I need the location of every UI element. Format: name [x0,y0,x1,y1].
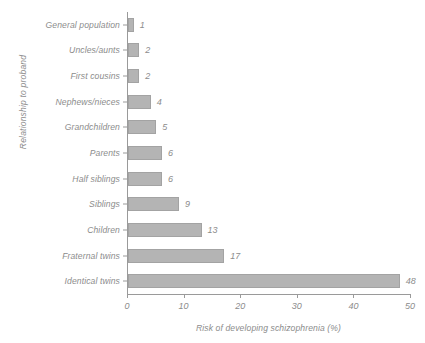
schizophrenia-risk-bar-chart: Relationship to proband General populati… [0,0,425,343]
x-axis-tick-label: 30 [292,301,302,311]
category-label: Siblings [89,199,120,209]
category-label: Identical twins [65,276,120,286]
bar [128,43,139,57]
x-axis-tick-label: 40 [348,301,358,311]
bar-value-label: 6 [168,174,173,184]
bar-row: Uncles/aunts2 [127,38,410,64]
bar-value-label: 13 [208,225,218,235]
x-axis-tick-label: 10 [179,301,189,311]
category-label: Grandchildren [65,122,120,132]
bar-value-label: 2 [145,71,150,81]
bar [128,249,224,263]
plot-area: General population1Uncles/aunts2First co… [127,12,410,294]
x-axis-tick [353,294,354,298]
bar-row: Half siblings6 [127,166,410,192]
bar-row: Siblings9 [127,191,410,217]
x-axis-line [127,294,410,295]
y-axis-tick [123,255,127,256]
bar-row: Children13 [127,217,410,243]
bar [128,120,156,134]
category-label: Nephews/nieces [56,97,120,107]
bar-row: Parents6 [127,140,410,166]
y-axis-tick [123,24,127,25]
bar [128,18,134,32]
bar-value-label: 6 [168,148,173,158]
x-axis-tick [127,294,128,298]
bar-row: First cousins2 [127,63,410,89]
x-axis-tick-label: 0 [124,301,129,311]
x-axis-title: Risk of developing schizophrenia (%) [127,323,410,333]
category-label: Uncles/aunts [69,45,120,55]
bar [128,95,151,109]
bar-value-label: 48 [406,276,416,286]
x-axis-tick [410,294,411,298]
category-label: First cousins [70,71,120,81]
y-axis-tick [123,152,127,153]
y-axis-tick [123,76,127,77]
y-axis-title: Relationship to proband [18,32,28,172]
y-axis-tick [123,50,127,51]
category-label: General population [46,20,120,30]
bar-row: General population1 [127,12,410,38]
category-label: Half siblings [72,174,120,184]
x-axis-tick [184,294,185,298]
category-label: Fraternal twins [62,251,120,261]
x-axis-tick-label: 50 [405,301,415,311]
y-axis-tick [123,204,127,205]
y-axis-tick [123,178,127,179]
bar-value-label: 5 [162,122,167,132]
x-axis-tick [240,294,241,298]
y-axis-tick [123,229,127,230]
category-label: Parents [90,148,120,158]
bar-row: Fraternal twins17 [127,243,410,269]
x-axis-tick [297,294,298,298]
bar-value-label: 4 [157,97,162,107]
bar-row: Identical twins48 [127,268,410,294]
bar-value-label: 2 [145,45,150,55]
bar [128,274,400,288]
x-axis-tick-label: 20 [235,301,245,311]
y-axis-tick [123,101,127,102]
bar-row: Nephews/nieces4 [127,89,410,115]
bar [128,223,202,237]
y-axis-tick [123,127,127,128]
bar-value-label: 17 [230,251,240,261]
category-label: Children [87,225,120,235]
bar-value-label: 1 [140,20,145,30]
y-axis-tick [123,281,127,282]
bar-value-label: 9 [185,199,190,209]
bar [128,69,139,83]
bar [128,146,162,160]
bar-row: Grandchildren5 [127,115,410,141]
bar [128,172,162,186]
bar [128,197,179,211]
